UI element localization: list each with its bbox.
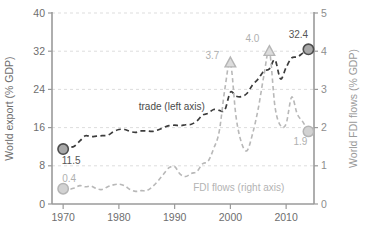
y-axis-title-right: World FDI flows (% GDP) (347, 49, 359, 168)
xtick-label-2000: 2000 (219, 211, 243, 223)
ytick-label-left-24: 24 (33, 83, 45, 95)
endpoint-markers (58, 44, 314, 194)
annotation-0-4: 0.4 (62, 173, 76, 184)
ytick-label-right-3: 3 (321, 83, 327, 95)
xtick-label-1980: 1980 (107, 211, 131, 223)
marker-0-4 (58, 184, 68, 194)
ytick-label-right-2: 2 (321, 121, 327, 133)
marker-1-9 (303, 126, 313, 136)
chart-container: 081624324001234519701980199020002010 tra… (0, 0, 369, 236)
series-label-fdi: FDI flows (right axis) (193, 182, 284, 193)
marker-11-5 (58, 144, 68, 154)
annotation-4-0: 4.0 (245, 33, 259, 44)
data-series (63, 49, 308, 191)
ytick-label-right-4: 4 (321, 45, 327, 57)
xtick-label-1970: 1970 (51, 211, 75, 223)
marker-4-0 (264, 46, 275, 56)
xtick-label-2010: 2010 (274, 211, 298, 223)
ytick-label-left-16: 16 (33, 121, 45, 133)
annotation-3-7: 3.7 (205, 50, 219, 61)
ytick-label-left-8: 8 (39, 159, 45, 171)
ytick-label-left-32: 32 (33, 45, 45, 57)
ytick-label-right-5: 5 (321, 7, 327, 19)
series-line-fdi (63, 50, 308, 191)
xtick-label-1990: 1990 (163, 211, 187, 223)
series-labels: trade (left axis)FDI flows (right axis) (139, 101, 285, 194)
ytick-label-left-40: 40 (33, 7, 45, 19)
world-trade-fdi-line-chart: 081624324001234519701980199020002010 tra… (0, 0, 369, 236)
marker-32-4 (303, 44, 313, 54)
ytick-label-right-0: 0 (321, 198, 327, 210)
gridlines (52, 13, 314, 166)
series-label-trade: trade (left axis) (139, 101, 205, 112)
annotation-32-4: 32.4 (289, 29, 309, 40)
annotation-1-9: 1.9 (293, 136, 307, 147)
ytick-label-left-0: 0 (39, 198, 45, 210)
annotation-11-5: 11.5 (62, 155, 81, 166)
y-axis-title-left: World export (% GDP) (3, 56, 15, 160)
ytick-label-right-1: 1 (321, 159, 327, 171)
marker-3-7 (225, 57, 236, 67)
